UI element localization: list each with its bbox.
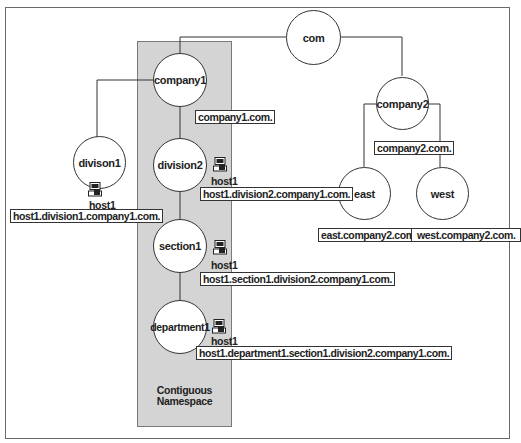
fqdn-label-division1-host: host1.division1.company1.com.	[10, 209, 163, 223]
computer-icon	[213, 157, 227, 173]
contiguous-namespace-label: Contiguous Namespace	[137, 385, 232, 407]
node-division2: division2	[153, 138, 207, 192]
namespace-label-line2: Namespace	[137, 396, 232, 407]
node-com: com	[286, 10, 341, 65]
fqdn-label-west: west.company2.com.	[411, 228, 521, 242]
fqdn-label-section1-host: host1.section1.division2.company1.com.	[200, 272, 395, 286]
host-name-section1: host1	[211, 260, 238, 271]
host-name-department1: host1	[211, 336, 238, 347]
fqdn-label-company2: company2.com.	[374, 141, 454, 155]
node-section1: section1	[153, 219, 207, 273]
computer-icon	[213, 240, 227, 256]
computer-icon	[212, 319, 226, 335]
host-name-division1: host1	[89, 200, 116, 211]
node-company2: company2	[376, 77, 429, 130]
fqdn-label-company1: company1.com.	[195, 110, 275, 124]
fqdn-label-division2-host: host1.division2.company1.com.	[200, 187, 353, 201]
fqdn-label-east: east.company2.com.	[318, 228, 420, 242]
computer-icon	[88, 182, 102, 198]
host-name-division2: host1	[211, 176, 238, 187]
fqdn-label-department1-host: host1.department1.section1.division2.com…	[196, 346, 452, 360]
node-company1: company1	[153, 53, 207, 107]
node-west: west	[416, 167, 469, 220]
